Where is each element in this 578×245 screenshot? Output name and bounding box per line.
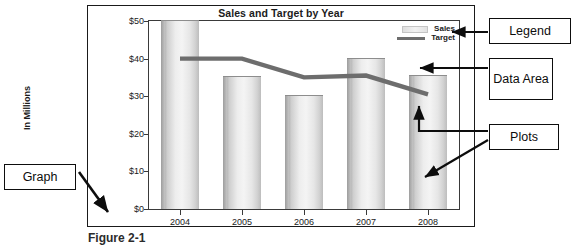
- callout-graph: Graph: [4, 164, 76, 190]
- y-tick-label: $20: [129, 129, 144, 139]
- x-tick-mark: [428, 209, 429, 215]
- x-tick-mark: [366, 209, 367, 215]
- chart-title: Sales and Target by Year: [87, 7, 475, 19]
- figure-caption: Figure 2-1: [88, 231, 145, 245]
- legend-entry-target: Target: [397, 34, 455, 43]
- x-tick-label: 2006: [294, 217, 314, 227]
- y-tick-label: $50: [129, 16, 144, 26]
- y-tick-label: $30: [129, 91, 144, 101]
- x-tick-label: 2007: [356, 217, 376, 227]
- callout-plots-label: Plots: [510, 130, 538, 144]
- x-tick-mark: [242, 209, 243, 215]
- callout-plots: Plots: [489, 124, 559, 150]
- callout-legend: Legend: [489, 18, 571, 44]
- legend-label-target: Target: [431, 34, 455, 42]
- callout-data-area-label: Data Area: [493, 72, 549, 86]
- chart-legend: Sales Target: [397, 25, 455, 43]
- x-tick-label: 2004: [170, 217, 190, 227]
- plot-inner: $0$10$20$30$40$50 20042005200620072008 S…: [149, 21, 459, 209]
- y-tick-label: $10: [129, 166, 144, 176]
- data-area: $0$10$20$30$40$50 20042005200620072008 S…: [148, 20, 460, 210]
- y-tick-label: $0: [134, 204, 144, 214]
- x-tick-label: 2005: [232, 217, 252, 227]
- y-tick-mark: [144, 209, 149, 210]
- callout-data-area: Data Area: [489, 58, 553, 100]
- x-tick-mark: [304, 209, 305, 215]
- y-tick-label: $40: [129, 54, 144, 64]
- x-tick-mark: [180, 209, 181, 215]
- target-line: [149, 21, 459, 209]
- legend-swatch-target-icon: [397, 37, 425, 41]
- callout-legend-label: Legend: [509, 24, 551, 38]
- y-axis-title: In Millions: [22, 63, 32, 153]
- callout-graph-label: Graph: [23, 170, 58, 184]
- legend-swatch-sales-icon: [402, 26, 428, 33]
- x-tick-label: 2008: [418, 217, 438, 227]
